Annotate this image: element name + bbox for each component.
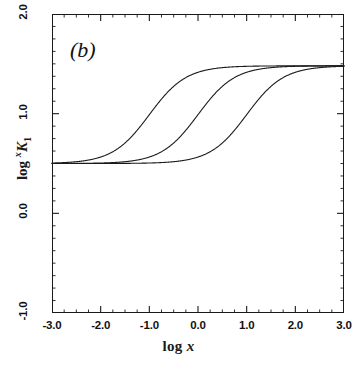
- figure-panel-b: (b) -3.0-2.0-1.00.01.02.03.0 -1.00.01.02…: [0, 0, 357, 366]
- panel-label: (b): [70, 37, 96, 63]
- x-tick-label: 0.0: [178, 319, 218, 331]
- y-tick-label: 2.0: [17, 0, 29, 32]
- plot-frame: [52, 14, 344, 313]
- x-tick-label: -1.0: [129, 319, 169, 331]
- x-tick-label: 2.0: [275, 319, 315, 331]
- x-tick-label: 1.0: [227, 319, 267, 331]
- y-axis-title: log xK1: [12, 114, 33, 204]
- y-tick-label: -1.0: [17, 291, 29, 331]
- x-tick-label: -3.0: [32, 319, 72, 331]
- x-axis-title: log x: [0, 338, 357, 355]
- x-tick-label: 3.0: [324, 319, 357, 331]
- x-tick-label: -2.0: [81, 319, 121, 331]
